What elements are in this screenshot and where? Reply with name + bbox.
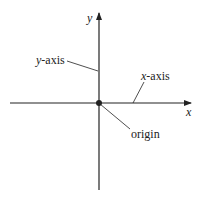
y-axis-annotation: y-axis [35,53,65,67]
x-axis-annotation: x-axis [140,69,170,83]
y-axis-annotation-suffix: -axis [41,53,65,67]
x-axis-annotation-suffix: -axis [146,69,170,83]
x-axis-leader-line [133,82,144,103]
y-axis-leader-line [67,61,98,71]
x-axis-end-label: x [185,105,192,119]
coordinate-plane-diagram: y x y-axis x-axis origin [0,0,205,206]
origin-leader-line [100,104,130,129]
y-axis-end-label: y [86,11,93,25]
origin-annotation: origin [131,127,160,141]
